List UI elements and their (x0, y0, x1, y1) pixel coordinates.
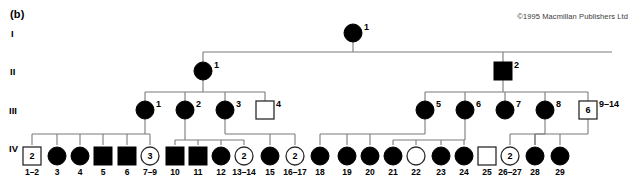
individual-id-label: 4 (78, 167, 83, 177)
sibship-count-label: 2 (241, 151, 246, 161)
individual-id-label: 11 (194, 167, 203, 177)
square-symbol[interactable] (118, 147, 136, 165)
pedigree-individual-iv-16[interactable]: 21 (384, 147, 402, 177)
circle-symbol[interactable] (71, 147, 89, 165)
pedigree-individual-iv-23[interactable]: 29 (551, 147, 569, 177)
circle-symbol[interactable] (432, 147, 450, 165)
pedigree-individual-iv-3[interactable]: 4 (71, 147, 89, 177)
individual-id-label: 21 (388, 167, 398, 177)
pedigree-individual-iii-8[interactable]: 8 (536, 99, 561, 119)
individual-id-label: 24 (459, 167, 469, 177)
circle-symbol[interactable] (136, 101, 154, 119)
sibship-count-label: 3 (147, 151, 152, 161)
circle-symbol[interactable] (455, 147, 473, 165)
pedigree-individual-iv-8[interactable]: 11 (189, 147, 207, 177)
circle-symbol[interactable] (456, 101, 474, 119)
square-symbol[interactable] (189, 147, 207, 165)
circle-symbol[interactable] (496, 101, 514, 119)
pedigree-individual-iv-15[interactable]: 20 (361, 147, 379, 177)
pedigree-individual-iii-2[interactable]: 2 (176, 99, 201, 119)
square-symbol[interactable] (256, 101, 274, 119)
individual-id-label: 4 (276, 99, 281, 109)
circle-symbol[interactable] (216, 101, 234, 119)
individual-id-label: 26–27 (498, 167, 522, 177)
square-symbol[interactable] (166, 147, 184, 165)
circle-symbol[interactable] (212, 147, 230, 165)
individual-id-label: 10 (170, 167, 180, 177)
individual-id-label: 2 (196, 99, 201, 109)
pedigree-individual-iii-9[interactable]: 69–14 (579, 99, 619, 119)
pedigree-individual-iv-7[interactable]: 10 (166, 147, 184, 177)
pedigree-individual-iii-6[interactable]: 6 (456, 99, 481, 119)
pedigree-individual-iii-5[interactable]: 5 (416, 99, 441, 119)
pedigree-individual-iv-21[interactable]: 226–27 (498, 147, 522, 177)
pedigree-individual-iv-2[interactable]: 3 (48, 147, 66, 177)
individual-id-label: 5 (101, 167, 106, 177)
pedigree-individual-iv-14[interactable]: 19 (338, 147, 356, 177)
pedigree-individual-i-1[interactable]: 1 (344, 22, 369, 42)
pedigree-individual-iv-13[interactable]: 18 (311, 147, 329, 177)
individual-id-label: 28 (530, 167, 540, 177)
pedigree-individual-iii-7[interactable]: 7 (496, 99, 521, 119)
circle-symbol[interactable] (407, 147, 425, 165)
individual-id-label: 3 (236, 99, 241, 109)
pedigree-individual-iv-9[interactable]: 12 (212, 147, 230, 177)
individual-id-label: 2 (514, 60, 519, 70)
individual-id-label: 3 (55, 167, 60, 177)
individual-id-label: 9–14 (599, 99, 619, 109)
individual-id-label: 12 (216, 167, 226, 177)
pedigree-individual-ii-1[interactable]: 1 (194, 60, 219, 80)
pedigree-individual-iv-18[interactable]: 23 (432, 147, 450, 177)
individual-id-label: 6 (476, 99, 481, 109)
pedigree-individual-iv-20[interactable]: 25 (478, 147, 496, 177)
individual-id-label: 23 (436, 167, 446, 177)
individual-id-label: 8 (556, 99, 561, 109)
individual-id-label: 1 (214, 60, 219, 70)
individual-id-label: 15 (265, 167, 275, 177)
circle-symbol[interactable] (384, 147, 402, 165)
circle-symbol[interactable] (338, 147, 356, 165)
circle-symbol[interactable] (344, 24, 362, 42)
sibship-count-label: 2 (507, 151, 512, 161)
pedigree-individual-iv-17[interactable]: 22 (407, 147, 425, 177)
individual-id-label: 5 (436, 99, 441, 109)
pedigree-individual-iv-11[interactable]: 15 (261, 147, 279, 177)
pedigree-figure: (b) ©1995 Macmillan Publishers Ltd I II … (0, 0, 634, 183)
square-symbol[interactable] (94, 147, 112, 165)
individual-id-label: 29 (555, 167, 565, 177)
individual-id-label: 13–14 (232, 167, 256, 177)
sibship-count-label: 2 (29, 151, 34, 161)
individual-id-label: 25 (482, 167, 492, 177)
pedigree-individual-iv-1[interactable]: 21–2 (23, 147, 41, 177)
circle-symbol[interactable] (261, 147, 279, 165)
pedigree-individual-iv-5[interactable]: 6 (118, 147, 136, 177)
circle-symbol[interactable] (311, 147, 329, 165)
circle-symbol[interactable] (416, 101, 434, 119)
pedigree-individual-iv-12[interactable]: 216–17 (283, 147, 307, 177)
individual-id-label: 19 (342, 167, 352, 177)
circle-symbol[interactable] (551, 147, 569, 165)
sibship-count-label: 6 (585, 105, 590, 115)
square-symbol[interactable] (478, 147, 496, 165)
square-symbol[interactable] (494, 62, 512, 80)
individual-id-label: 18 (315, 167, 325, 177)
pedigree-individual-ii-2[interactable]: 2 (494, 60, 519, 80)
pedigree-individual-iii-3[interactable]: 3 (216, 99, 241, 119)
circle-symbol[interactable] (536, 101, 554, 119)
circle-symbol[interactable] (176, 101, 194, 119)
sibship-count-label: 2 (292, 151, 297, 161)
circle-symbol[interactable] (194, 62, 212, 80)
pedigree-individual-iv-22[interactable]: 28 (526, 147, 544, 177)
pedigree-individual-iv-4[interactable]: 5 (94, 147, 112, 177)
circle-symbol[interactable] (48, 147, 66, 165)
pedigree-individual-iv-6[interactable]: 37–9 (141, 147, 159, 177)
individual-id-label: 1 (156, 99, 161, 109)
individual-id-label: 6 (125, 167, 130, 177)
pedigree-individual-iii-1[interactable]: 1 (136, 99, 161, 119)
pedigree-individual-iv-10[interactable]: 213–14 (232, 147, 256, 177)
circle-symbol[interactable] (526, 147, 544, 165)
pedigree-connector-lines (32, 42, 612, 145)
circle-symbol[interactable] (361, 147, 379, 165)
pedigree-individual-iv-19[interactable]: 24 (455, 147, 473, 177)
pedigree-individual-iii-4[interactable]: 4 (256, 99, 281, 119)
